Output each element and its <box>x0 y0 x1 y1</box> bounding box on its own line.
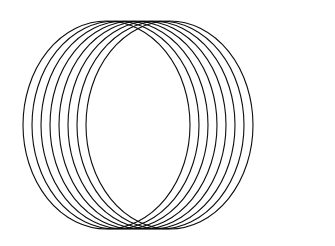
circle-rosette-figure <box>0 0 335 246</box>
figure-canvas <box>0 0 335 246</box>
